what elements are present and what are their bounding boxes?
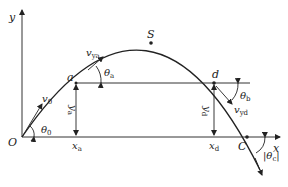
vya-label: vya	[86, 47, 100, 60]
thetac-label: |θc|	[263, 150, 280, 163]
xa-label: xa	[72, 140, 82, 153]
point-a-label: a	[67, 71, 74, 84]
trajectory-curve	[22, 50, 260, 170]
thetaa-label: θa	[104, 67, 114, 80]
ya-label: ya	[66, 104, 79, 115]
thetab-arc	[232, 83, 238, 100]
point-c	[245, 135, 249, 139]
vyd-label: vyd	[234, 104, 249, 117]
projectile-diagram: x y O v0 θ0 a ya xa vya θa S d yd xd vyd…	[0, 0, 288, 187]
v0-label: v0	[42, 93, 52, 106]
point-d	[212, 81, 216, 85]
point-d-label: d	[212, 68, 219, 81]
theta0-label: θ0	[41, 124, 52, 137]
point-c-label: C	[238, 140, 247, 153]
xd-label: xd	[209, 140, 220, 153]
yd-label: yd	[200, 105, 213, 117]
y-axis-label: y	[8, 11, 16, 24]
point-a	[75, 82, 78, 85]
theta0-arc	[30, 126, 34, 137]
point-s	[149, 41, 153, 45]
trajectory-end-arrow	[255, 158, 262, 175]
thetaa-arc	[96, 66, 101, 83]
v0-arrow	[22, 104, 42, 137]
origin-label: O	[8, 136, 17, 149]
thetab-label: θb	[240, 90, 251, 103]
point-s-label: S	[147, 28, 155, 41]
